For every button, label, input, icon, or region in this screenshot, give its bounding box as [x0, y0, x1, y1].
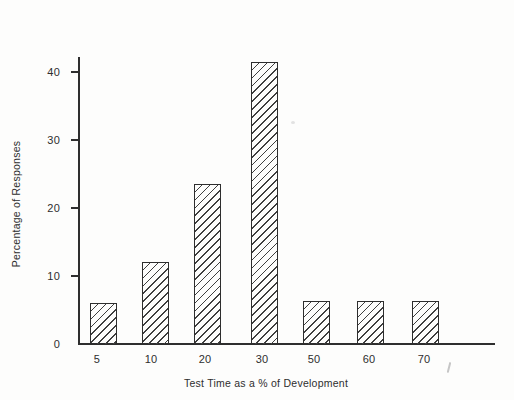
- y-tick: [71, 71, 78, 73]
- scan-artifact-smudge: [291, 121, 295, 124]
- x-axis-title: Test Time as a % of Development: [156, 376, 376, 391]
- bar-30: [251, 62, 278, 345]
- y-tick-label: 30: [34, 133, 60, 147]
- bar-5: [90, 303, 117, 345]
- y-tick-label: 20: [34, 201, 60, 215]
- x-tick-label: 50: [299, 352, 329, 366]
- bar-10: [142, 262, 169, 345]
- x-tick-label: 10: [136, 352, 166, 366]
- scanned-bar-chart-figure: Percentage of Responses Test Time as a %…: [0, 0, 514, 400]
- y-tick-label: 10: [34, 269, 60, 283]
- plot-area: Percentage of Responses Test Time as a %…: [0, 0, 514, 400]
- x-tick-label: 20: [190, 352, 220, 366]
- bar-50: [303, 301, 330, 345]
- x-tick-label: 70: [409, 352, 439, 366]
- x-tick-label: 60: [354, 352, 384, 366]
- y-tick: [71, 139, 78, 141]
- y-axis: [78, 57, 80, 345]
- bar-70: [412, 301, 439, 345]
- y-tick: [71, 275, 78, 277]
- y-tick-label: 40: [34, 65, 60, 79]
- y-axis-title: Percentage of Responses: [8, 124, 24, 284]
- x-tick-label: 5: [82, 352, 112, 366]
- bar-20: [194, 184, 221, 345]
- bar-60: [357, 301, 384, 345]
- y-tick: [71, 207, 78, 209]
- x-tick-label: 30: [247, 352, 277, 366]
- scan-artifact-mark: [447, 362, 452, 373]
- y-tick-label: 0: [34, 337, 60, 351]
